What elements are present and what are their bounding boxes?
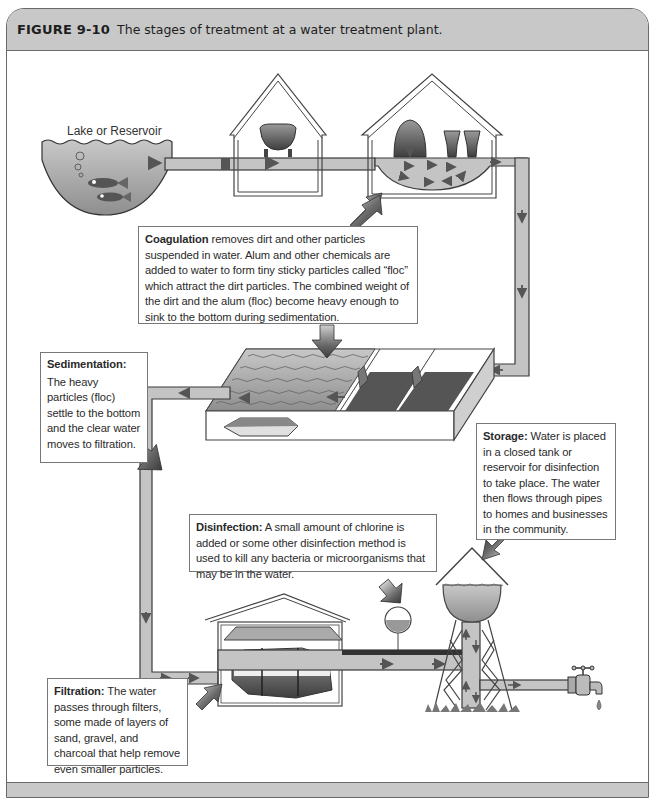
sedimentation-text: The heavy particles (floc) settle to the… [47,376,140,450]
storage-callout: Storage: Water is placed in a closed tan… [476,423,616,540]
coagulation-term: Coagulation [145,233,209,245]
filtration-text: The water passes through filters, some m… [54,685,180,775]
filtration-term: Filtration: [54,685,104,697]
coagulation-house [362,74,527,198]
intake-pipe [148,158,375,170]
sedimentation-basin-illustration [206,349,494,440]
lake-label: Lake or Reservoir [67,124,162,138]
storage-text: Water is placed in a closed tank or rese… [483,430,608,535]
sedimentation-callout: Sedimentation:The heavy particles (floc)… [40,352,148,463]
lake-basin-illustration [42,140,172,215]
filtration-callout: Filtration: The water passes through fil… [47,678,188,766]
sedimentation-term: Sedimentation: [47,357,141,373]
disinfection-callout: Disinfection: A small amount of chlorine… [189,514,437,572]
pipe-to-sedimentation [477,158,529,376]
coagulation-callout: Coagulation removes dirt and other parti… [138,226,418,324]
faucet-icon [568,666,602,710]
storage-term: Storage: [483,430,528,442]
disinfection-term: Disinfection: [196,521,262,533]
chlorine-gauge-illustration [385,607,411,650]
chemical-feed-house [230,74,326,196]
coagulation-text: removes dirt and other particles suspend… [145,233,409,323]
